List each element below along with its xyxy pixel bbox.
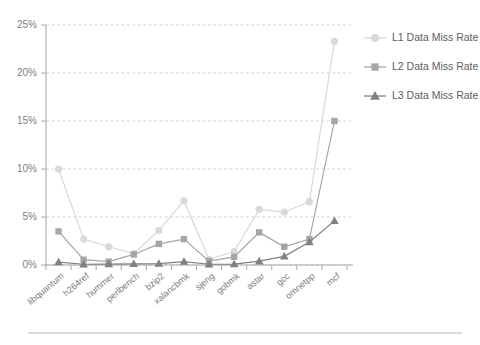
x-axis-tick-label: mcf [324, 271, 342, 288]
data-point-marker [256, 206, 263, 213]
data-point-marker [281, 244, 287, 250]
gridlines [46, 25, 353, 265]
data-point-marker [371, 34, 379, 42]
data-point-marker [80, 235, 87, 242]
chart-legend: L1 Data Miss RateL2 Data Miss RateL3 Dat… [364, 31, 479, 101]
data-series-layer [54, 38, 339, 268]
y-axis-ticks [41, 25, 46, 265]
x-axis-tick-labels: libquantumh264refhummerperlbenchbzip2xal… [26, 271, 343, 307]
data-point-marker [281, 209, 288, 216]
data-point-marker [55, 165, 62, 172]
x-axis-ticks [46, 265, 347, 270]
data-point-marker [55, 228, 61, 234]
data-point-marker [181, 236, 187, 242]
y-axis-tick-label: 5% [23, 211, 38, 222]
data-point-marker [180, 197, 187, 204]
legend-label: L3 Data Miss Rate [392, 89, 479, 101]
y-axis-tick-label: 10% [17, 163, 37, 174]
series-triangle [54, 217, 339, 268]
legend-label: L1 Data Miss Rate [392, 31, 479, 43]
legend-label: L2 Data Miss Rate [392, 60, 479, 72]
x-axis-tick-label: gobmk [214, 271, 242, 296]
legend-item[interactable]: L1 Data Miss Rate [364, 31, 479, 43]
data-point-marker [331, 38, 338, 45]
data-point-marker [180, 257, 189, 265]
chart-container: 0%5%10%15%20%25% libquantumh264refhummer… [0, 0, 480, 345]
data-point-marker [331, 118, 337, 124]
y-axis-tick-label: 0% [23, 259, 38, 270]
data-point-marker [105, 243, 112, 250]
legend-item[interactable]: L3 Data Miss Rate [364, 89, 479, 101]
line-chart: 0%5%10%15%20%25% libquantumh264refhummer… [0, 0, 480, 345]
x-axis-tick-label: gcc [274, 271, 292, 288]
data-point-marker [131, 251, 137, 257]
data-point-marker [371, 63, 378, 70]
data-point-marker [155, 227, 162, 234]
y-axis-tick-label: 20% [17, 67, 37, 78]
x-axis-tick-label: libquantum [26, 271, 66, 307]
series-circle [55, 38, 338, 263]
series-line [59, 41, 335, 259]
y-axis-tick-label: 25% [17, 19, 37, 30]
data-point-marker [256, 229, 262, 235]
legend-item[interactable]: L2 Data Miss Rate [364, 60, 479, 72]
series-line [59, 221, 335, 264]
data-point-marker [54, 258, 63, 266]
y-axis-tick-labels: 0%5%10%15%20%25% [17, 19, 37, 270]
y-axis-tick-label: 15% [17, 115, 37, 126]
data-point-marker [330, 217, 339, 225]
data-point-marker [280, 252, 289, 260]
data-point-marker [306, 198, 313, 205]
x-axis-tick-label: astar [245, 271, 267, 292]
series-line [59, 121, 335, 262]
data-point-marker [231, 254, 237, 260]
data-point-marker [156, 241, 162, 247]
x-axis-tick-label: sjeng [193, 271, 216, 292]
